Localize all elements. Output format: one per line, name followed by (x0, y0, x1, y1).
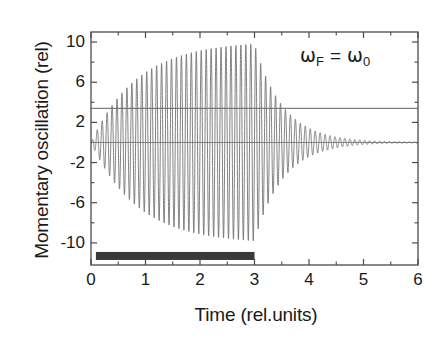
x-axis-title: Time (rel.units) (92, 304, 420, 326)
y-tick-label: 2 (40, 112, 85, 132)
y-tick-label: -10 (40, 233, 85, 253)
x-tick-label: 0 (86, 270, 95, 290)
x-tick-label: 6 (413, 270, 422, 290)
figure-container: Momentary oscillation (rel) Time (rel.un… (0, 0, 444, 339)
y-tick-label: 6 (40, 72, 85, 92)
x-tick-label: 4 (304, 270, 313, 290)
x-tick-label: 3 (250, 270, 259, 290)
x-tick-label: 2 (195, 270, 204, 290)
omega-natural-subscript: 0 (363, 54, 370, 69)
y-tick-label: 10 (40, 32, 85, 52)
omega-driver-subscript: F (316, 54, 324, 69)
omega-driver-symbol: ω (300, 44, 316, 66)
x-tick-label: 1 (141, 270, 150, 290)
resonance-condition-annotation: ωF=ω0 (300, 44, 370, 69)
equals-sign: = (324, 45, 347, 66)
drive-duration-bar (96, 252, 255, 260)
omega-natural-symbol: ω (347, 44, 363, 66)
x-tick-label: 5 (359, 270, 368, 290)
y-tick-label: -6 (40, 193, 85, 213)
y-tick-label: -2 (40, 153, 85, 173)
